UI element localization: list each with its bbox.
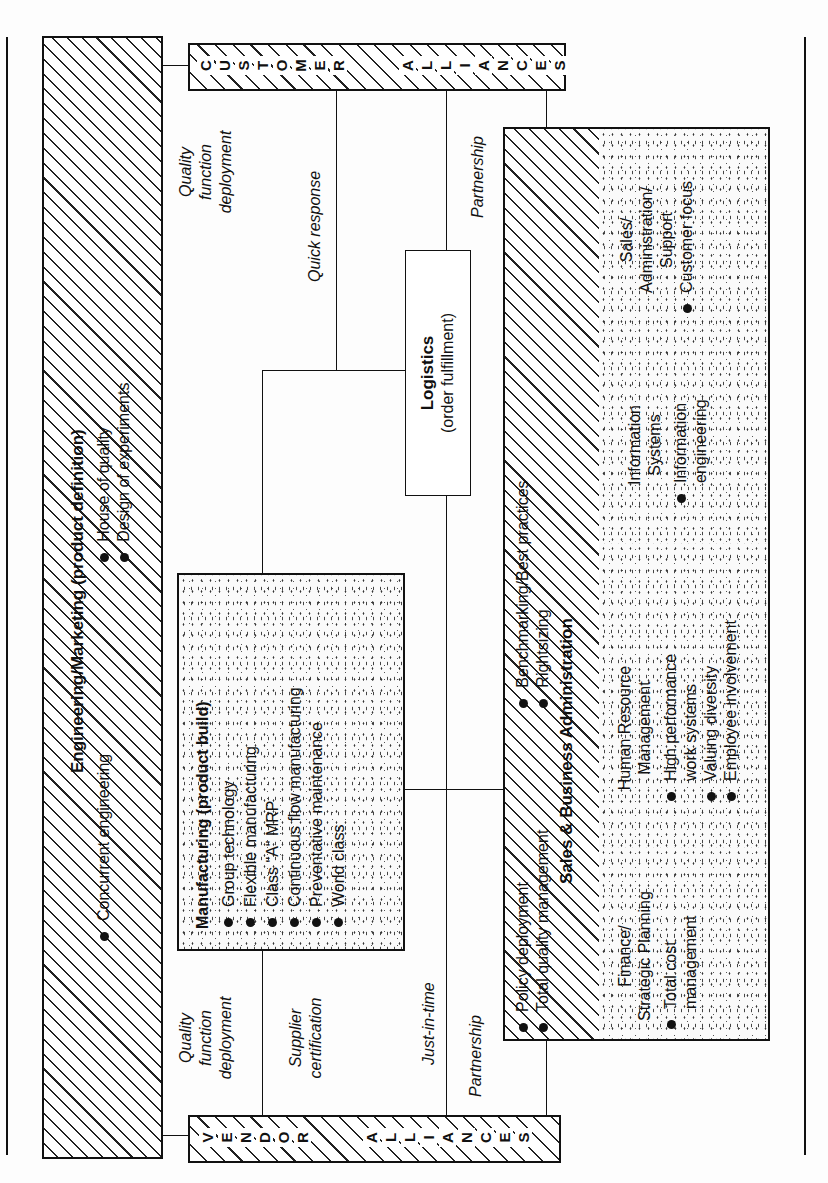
sales-item-rightsizing: Rightsizing [533,480,553,709]
quick-response-label: Quick response [305,171,325,282]
mfg-item-world-class: World class [328,589,350,929]
sales-item-policy-deployment: Policy deployment [513,830,533,1034]
dept-hr-item-high-performance: High performance work systems [661,651,701,803]
dept-finance-title-1: Finance/ [615,881,635,1031]
eng-to-customer-connector [162,65,189,66]
dept-sales-admin-support-content: Sales/ Administration/ Support Customer … [617,139,697,315]
vendor-alliances-box: V E N D O R A L L I A N C E S [188,1115,561,1163]
logistics-branch-line [262,370,406,371]
dept-human-resource-management: Human Resource Management High performan… [599,543,768,849]
mfg-item-class-a-mrp: Class "A" MRP [262,589,284,929]
manufacturing-sales-link [404,789,504,790]
vendor-qfd-label: Quality function deployment [176,978,236,1098]
sales-admin-title: Sales & Business Administration [557,134,577,1034]
sales-admin-strip-content: Policy deployment Total quality manageme… [513,134,577,1034]
manufacturing-top-connector [262,370,263,574]
dept-information-systems-content: Information Systems Information engineer… [625,345,711,505]
manufacturing-title: Manufacturing (product build) [193,589,213,929]
dept-hr-content: Human Resource Management High performan… [615,563,741,803]
dept-hr-title-1: Human Resource [615,653,635,803]
mfg-item-continuous-flow: Continuous flow manufacturing [284,589,306,929]
logistics-title: Logistics [418,251,438,495]
dept-is-title-1: Information [625,385,645,505]
vendor-partnership-line [546,1040,547,1116]
customer-partnership-label: Partnership [468,136,488,218]
supplier-line [262,950,263,1116]
eng-item-design-of-experiments: Design of experiments [114,383,134,564]
dept-finance-strategic-planning: Finance/ Strategic Planning Total cost m… [599,847,768,1039]
sales-admin-hatched-strip: Policy deployment Total quality manageme… [505,129,601,1039]
customer-alliances-box: C U S T O M E R A L L I A N C E S [188,43,566,91]
dept-hr-item-valuing-diversity: Valuing diversity [701,563,721,803]
mfg-item-preventative-maintenance: Preventative maintenance [306,589,328,929]
sales-item-benchmarking: Benchmarking/Best practices [513,480,533,709]
customer-partnership-line [546,90,547,128]
logistics-box: Logistics (order fulfillment) [405,250,471,496]
manufacturing-box: Manufacturing (product build) Group tech… [177,573,405,951]
supplier-certification-label: Supplier certification [286,978,326,1098]
eng-item-concurrent: Concurrent engineering [94,754,114,943]
mfg-item-group-technology: Group technology [218,589,240,929]
customer-qfd-label: Quality function deployment [176,112,236,232]
dept-hr-title-2: Management [635,653,655,803]
dept-is-item-information-engineering: Information engineering [671,393,711,505]
dept-hr-item-employee-involvement: Employee involvement [721,563,741,803]
eng-to-vendor-connector [162,1135,189,1136]
dept-sales-title-3: Support [657,165,677,315]
dept-sales-admin-support: Sales/ Administration/ Support Customer … [599,129,768,327]
customer-alliances-label: C U S T O M E R A L L I A N C E S [196,57,569,74]
quick-response-line [336,90,337,370]
logistics-content: Logistics (order fulfillment) [418,251,458,495]
vendor-partnership-label: Partnership [466,1015,486,1097]
engineering-marketing-title: Engineering/Marketing (product definitio… [68,73,88,943]
dept-sales-title-1: Sales/ [617,165,637,315]
logistics-bottom-line [446,495,447,1116]
dept-sales-title-2: Administration/ [637,165,657,315]
vendor-alliances-label: V E N D O R A L L I A N C E S [198,1129,533,1146]
logistics-subtitle: (order fulfillment) [438,251,458,495]
sales-business-admin-box: Policy deployment Total quality manageme… [503,127,770,1041]
left-border-rule [6,37,8,1155]
just-in-time-label: Just-in-time [419,982,439,1065]
dept-finance-item-total-cost: Total cost management [661,909,701,1031]
right-border-rule [804,37,806,1155]
dept-finance-content: Finance/ Strategic Planning Total cost m… [615,861,701,1031]
dept-information-systems: Information Systems Information engineer… [599,325,768,545]
mfg-item-flexible-manufacturing: Flexible manufacturing [240,589,262,929]
eng-item-house-of-quality: House of quality [94,383,114,564]
dept-sales-item-customer-focus: Customer focus [677,139,697,315]
dept-finance-title-2: Strategic Planning [635,881,655,1031]
logistics-top-line [446,90,447,250]
sales-item-tqm: Total quality management [533,830,553,1034]
manufacturing-content: Manufacturing (product build) Group tech… [193,589,350,929]
engineering-marketing-content: Engineering/Marketing (product definitio… [68,73,134,943]
dept-is-title-2: Systems [645,385,665,505]
engineering-marketing-box: Engineering/Marketing (product definitio… [42,36,163,1159]
